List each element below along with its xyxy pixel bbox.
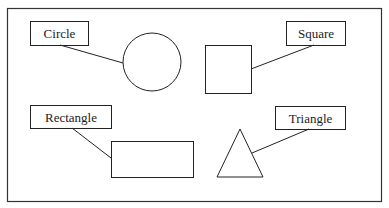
square-shape: [206, 46, 252, 94]
shapes-diagram: Circle Square Rectangle Triangle: [0, 0, 389, 208]
square-connector: [251, 45, 314, 69]
square-group: Square: [206, 22, 346, 94]
circle-shape: [123, 33, 181, 91]
triangle-group: Triangle: [217, 107, 346, 178]
triangle-label: Triangle: [289, 111, 333, 126]
rectangle-connector: [72, 128, 111, 158]
rectangle-shape: [112, 142, 194, 178]
rectangle-label: Rectangle: [45, 110, 97, 125]
circle-group: Circle: [31, 22, 182, 92]
circle-label: Circle: [44, 26, 76, 41]
triangle-connector: [252, 129, 309, 153]
triangle-shape: [217, 129, 263, 177]
square-label: Square: [298, 26, 334, 41]
rectangle-group: Rectangle: [31, 106, 194, 178]
circle-connector: [60, 45, 123, 63]
